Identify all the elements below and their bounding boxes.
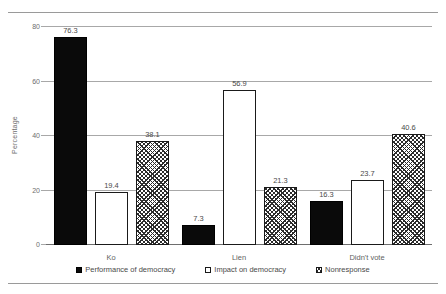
bar-ko-nonresponse[interactable]: 38.1: [136, 141, 169, 245]
ytick-mark-60: [41, 81, 46, 82]
legend-item-performance[interactable]: Performance of democracy: [76, 265, 175, 274]
bar-group-lien: 7.3 56.9 21.3 Lien: [178, 27, 304, 245]
chart-legend: Performance of democracy Impact on democ…: [0, 265, 446, 274]
bar-didnt-vote-nonresponse[interactable]: 40.6: [392, 134, 425, 245]
y-axis-title: Percentage: [11, 116, 18, 154]
bar-value-lien-impact: 56.9: [232, 79, 247, 88]
ytick-mark-0: [41, 244, 46, 245]
category-label-didnt-vote: Didn't vote: [349, 253, 384, 262]
plot-area: 80 60 40 20 0 76.3 19.4 38.1: [46, 27, 432, 245]
legend-label-impact: Impact on democracy: [214, 265, 286, 274]
legend-label-performance: Performance of democracy: [85, 265, 175, 274]
bar-didnt-vote-impact[interactable]: 23.7: [351, 180, 384, 245]
hatched-square-icon: [316, 267, 322, 273]
bar-didnt-vote-performance[interactable]: 16.3: [310, 201, 343, 245]
ytick-label-0: 0: [36, 241, 40, 248]
ytick-label-80: 80: [32, 23, 40, 30]
bar-value-ko-performance: 76.3: [63, 26, 78, 35]
bar-ko-impact[interactable]: 19.4: [95, 192, 128, 245]
bar-value-ko-impact: 19.4: [104, 181, 119, 190]
ytick-label-40: 40: [32, 132, 40, 139]
bar-ko-performance[interactable]: 76.3: [54, 37, 87, 245]
bar-lien-impact[interactable]: 56.9: [223, 90, 256, 245]
bar-value-lien-nonresponse: 21.3: [273, 176, 288, 185]
bottom-rule: [8, 283, 438, 284]
bar-group-didnt-vote: 16.3 23.7 40.6 Didn't vote: [306, 27, 432, 245]
legend-label-nonresponse: Nonresponse: [325, 265, 370, 274]
bar-group-ko: 76.3 19.4 38.1 Ko: [50, 27, 176, 245]
top-rule: [8, 12, 438, 13]
chart-figure: Percentage 80 60 40 20 0 76.3: [0, 0, 446, 294]
bar-lien-performance[interactable]: 7.3: [182, 225, 215, 245]
legend-item-impact[interactable]: Impact on democracy: [205, 265, 286, 274]
ytick-label-20: 20: [32, 186, 40, 193]
bar-value-didnt-vote-performance: 16.3: [319, 190, 334, 199]
bar-value-lien-performance: 7.3: [193, 214, 203, 223]
open-square-icon: [205, 267, 211, 273]
category-label-ko: Ko: [106, 253, 115, 262]
ytick-label-60: 60: [32, 77, 40, 84]
ytick-mark-80: [41, 26, 46, 27]
ytick-mark-40: [41, 135, 46, 136]
legend-item-nonresponse[interactable]: Nonresponse: [316, 265, 370, 274]
bar-value-didnt-vote-impact: 23.7: [360, 169, 375, 178]
bar-value-didnt-vote-nonresponse: 40.6: [401, 123, 416, 132]
bar-lien-nonresponse[interactable]: 21.3: [264, 187, 297, 245]
solid-square-icon: [76, 267, 82, 273]
ytick-mark-20: [41, 190, 46, 191]
bar-value-ko-nonresponse: 38.1: [145, 130, 160, 139]
category-label-lien: Lien: [232, 253, 246, 262]
